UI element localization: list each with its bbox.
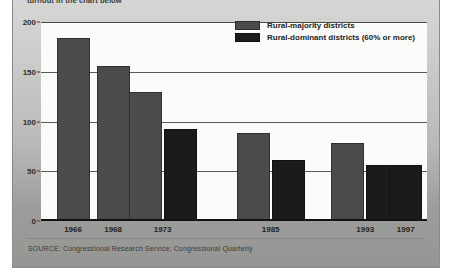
y-tick-mark-150 — [37, 71, 40, 72]
x-axis-label-1985: 1985 — [262, 225, 280, 234]
legend-item-dominant: Rural-dominant districts (60% or more) — [235, 33, 415, 42]
plot-area: 050100150200 — [41, 22, 427, 221]
bar-1985-majority — [237, 133, 270, 221]
y-tick-mark-0 — [37, 221, 40, 222]
x-axis-label-1968: 1968 — [104, 225, 122, 234]
bar-1973-majority — [129, 92, 162, 221]
y-tick-mark-50 — [37, 171, 40, 172]
y-axis-tick-0: 0 — [32, 217, 36, 226]
chart-legend: Rural-majority districtsRural-dominant d… — [235, 21, 415, 42]
legend-label-dominant: Rural-dominant districts (60% or more) — [267, 33, 415, 42]
legend-swatch-majority — [235, 21, 260, 30]
y-tick-mark-200 — [37, 22, 40, 23]
bar-1968-majority — [97, 66, 130, 221]
bar-1966-majority — [57, 38, 90, 221]
x-axis-label-1993: 1993 — [356, 225, 374, 234]
legend-swatch-dominant — [235, 33, 260, 42]
x-axis-label-1997: 1997 — [397, 225, 415, 234]
x-axis-label-1966: 1966 — [64, 225, 82, 234]
y-tick-mark-100 — [37, 121, 40, 122]
bar-1993-majority — [331, 143, 364, 221]
kicker-text: turnout in the chart below — [27, 0, 122, 5]
bar-1973-dominant — [164, 129, 197, 221]
legend-label-majority: Rural-majority districts — [267, 21, 355, 30]
y-axis-tick-150: 150 — [23, 67, 36, 76]
source-note: SOURCE: Congressional Research Service; … — [28, 245, 253, 252]
bar-1997-dominant — [389, 165, 422, 221]
y-axis-tick-100: 100 — [23, 117, 36, 126]
chart-panel: turnout in the chart below 050100150200 … — [12, 0, 440, 268]
axis-baseline — [41, 219, 427, 221]
bar-1985-dominant — [272, 160, 305, 221]
y-axis-tick-200: 200 — [23, 18, 36, 27]
legend-item-majority: Rural-majority districts — [235, 21, 415, 30]
x-axis-label-1973: 1973 — [154, 225, 172, 234]
y-axis-tick-50: 50 — [27, 167, 36, 176]
footer-divider — [27, 238, 425, 239]
